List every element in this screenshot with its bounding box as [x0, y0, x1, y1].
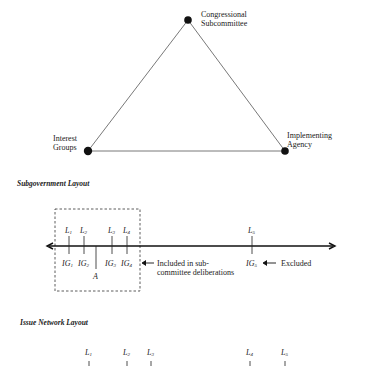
- interest-groups-label-line1: Interest: [53, 134, 77, 143]
- legislator-sub: 4: [127, 230, 130, 235]
- agency-label: Implementing Agency: [287, 131, 332, 149]
- subcommittee-node: [184, 16, 192, 24]
- issue-network-title: Issue Network Layout: [20, 318, 88, 327]
- group-sub: 2: [86, 263, 89, 268]
- issue-legislator-label: L2: [123, 348, 130, 359]
- agency-marker-label: A: [93, 272, 98, 281]
- interest-groups-node: [84, 147, 92, 155]
- legislator-label: L5: [248, 226, 255, 237]
- legislator-label: L2: [80, 226, 87, 237]
- legislator-sub: 3: [151, 352, 154, 357]
- included-note: Included in sub- committee deliberations: [157, 259, 234, 277]
- iron-triangle: [84, 16, 289, 155]
- included-note-line2: committee deliberations: [157, 268, 234, 277]
- interest-group-label: IG4: [121, 259, 132, 270]
- issue-legislator-label: L1: [85, 348, 92, 359]
- group-sub: 1: [70, 263, 73, 268]
- legislator-label: L3: [108, 226, 115, 237]
- group-sub: 5: [254, 263, 257, 268]
- interest-group-label: IG3: [105, 259, 116, 270]
- subcommittee-label: Congressional Subcommittee: [201, 10, 247, 28]
- subgovernment-title: Subgovernment Layout: [17, 179, 89, 188]
- included-note-line1: Included in sub-: [157, 259, 234, 268]
- group-sub: 3: [113, 263, 116, 268]
- subcommittee-label-line1: Congressional: [201, 10, 247, 19]
- legislator-sub: 2: [84, 230, 87, 235]
- group-sub: 4: [129, 263, 132, 268]
- legislator-sub: 1: [89, 352, 92, 357]
- agency-label-line2: Agency: [287, 140, 332, 149]
- excluded-note: Excluded: [281, 259, 311, 268]
- agency-label-line1: Implementing: [287, 131, 332, 140]
- issue-legislator-label: L5: [281, 348, 288, 359]
- legislator-label: L4: [123, 226, 130, 237]
- subcommittee-label-line2: Subcommittee: [201, 19, 247, 28]
- legislator-sub: 4: [250, 352, 253, 357]
- legislator-sub: 3: [112, 230, 115, 235]
- legislator-label: L1: [65, 226, 72, 237]
- interest-group-label: IG1: [62, 259, 73, 270]
- issue-network-ticks: [89, 361, 285, 366]
- interest-group-label: IG2: [78, 259, 89, 270]
- interest-group-label: IG5: [246, 259, 257, 270]
- legislator-sub: 2: [127, 352, 130, 357]
- legislator-sub: 5: [285, 352, 288, 357]
- issue-legislator-label: L4: [246, 348, 253, 359]
- legislator-sub: 5: [252, 230, 255, 235]
- legislator-sub: 1: [69, 230, 72, 235]
- interest-groups-label-line2: Groups: [53, 143, 77, 152]
- issue-legislator-label: L3: [147, 348, 154, 359]
- interest-groups-label: Interest Groups: [53, 134, 77, 152]
